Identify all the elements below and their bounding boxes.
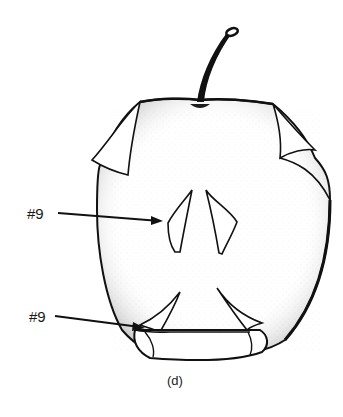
apple-illustration [0,0,343,417]
label-seed-cavity: #9 [27,206,44,221]
label-lower-notch: #9 [29,309,46,324]
apple-body [92,99,330,355]
apple-diagram: #9 #9 (d) [0,0,343,417]
figure-caption: (d) [167,374,183,387]
stem [190,27,239,108]
